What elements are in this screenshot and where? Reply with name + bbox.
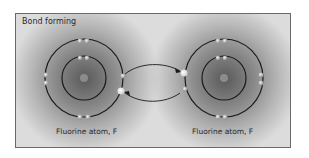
arrow-left-icon bbox=[125, 93, 180, 101]
right-atom-label: Fluorine atom, F bbox=[192, 127, 253, 136]
bond-diagram bbox=[0, 0, 309, 158]
arrowhead-icon bbox=[175, 68, 181, 73]
left-fluorine-atom bbox=[44, 39, 126, 120]
left-atom-label: Fluorine atom, F bbox=[56, 127, 117, 136]
electron-exchange-arrows bbox=[125, 65, 180, 102]
arrowhead-icon bbox=[124, 91, 130, 96]
right-fluorine-atom bbox=[181, 39, 264, 120]
nucleus-icon bbox=[80, 74, 88, 82]
arrow-right-icon bbox=[125, 65, 180, 74]
bond-electron bbox=[181, 70, 188, 77]
nucleus-icon bbox=[220, 74, 228, 82]
bond-electron bbox=[118, 88, 125, 95]
